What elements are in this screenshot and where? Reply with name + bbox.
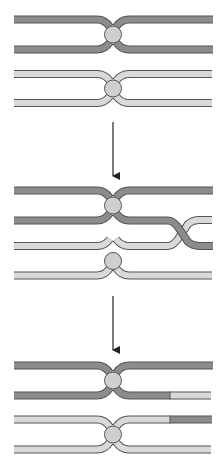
centromere: [105, 80, 122, 97]
centromere: [105, 372, 122, 389]
stage-crossing-over: [14, 191, 213, 276]
crossing-over-diagram: [0, 0, 219, 462]
light-chromosome: [14, 74, 212, 103]
centromere: [105, 197, 122, 214]
centromere: [105, 26, 122, 43]
centromere: [105, 426, 122, 443]
centromere: [105, 253, 122, 270]
stage-paired-homologs: [14, 20, 213, 104]
stage-recombinant: [14, 366, 213, 450]
dark-chromosome: [14, 20, 213, 50]
